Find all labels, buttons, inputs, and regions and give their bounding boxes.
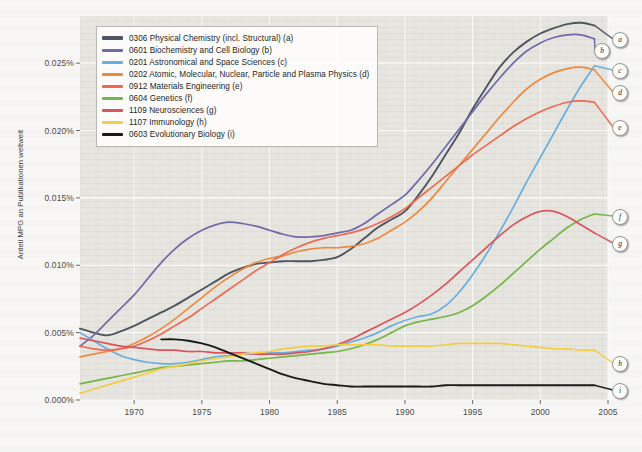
chart-legend: 0306 Physical Chemistry (incl. Structura… (96, 26, 378, 147)
legend-item[interactable]: 1109 Neurosciences (g) (102, 105, 369, 117)
legend-item-label: 0306 Physical Chemistry (incl. Structura… (129, 34, 293, 43)
legend-item[interactable]: 1107 Immunology (h) (102, 117, 369, 129)
legend-item[interactable]: 0202 Atomic, Molecular, Nuclear, Particl… (102, 68, 369, 80)
x-tick-label: 1995 (449, 407, 497, 417)
legend-color-swatch (102, 133, 123, 136)
series-end-badge-c: c (612, 63, 628, 79)
series-end-badge-g: g (612, 236, 628, 252)
y-tick-label: 0.010% (14, 260, 74, 270)
legend-item-label: 0202 Atomic, Molecular, Nuclear, Particl… (129, 70, 369, 79)
legend-item[interactable]: 0603 Evolutionary Biology (i) (102, 129, 369, 141)
series-end-badge-d: d (612, 85, 628, 101)
x-tick-label: 2000 (516, 407, 564, 417)
y-tick-label: 0.000% (14, 395, 74, 405)
series-end-badge-i: i (612, 383, 628, 399)
legend-item-label: 1107 Immunology (h) (129, 118, 207, 127)
series-end-badge-a: a (612, 32, 628, 48)
legend-item-label: 1109 Neurosciences (g) (129, 106, 216, 115)
legend-color-swatch (102, 97, 123, 100)
legend-color-swatch (102, 121, 123, 124)
chart-figure: Anteil MPG an Publikationen weltweit 0.0… (0, 0, 642, 452)
series-end-badge-h: h (612, 356, 628, 372)
y-tick-label: 0.020% (14, 126, 74, 136)
series-end-badge-f: f (612, 209, 628, 225)
legend-item-label: 0201 Astronomical and Space Sciences (c) (129, 58, 287, 67)
x-tick-label: 1975 (178, 407, 226, 417)
end-label-leaders (594, 25, 613, 390)
legend-item-label: 0604 Genetics (f) (129, 94, 193, 103)
y-tick-label: 0.025% (14, 58, 74, 68)
x-tick-label: 1980 (246, 407, 294, 417)
x-tick-label: 1985 (313, 407, 361, 417)
legend-item[interactable]: 0604 Genetics (f) (102, 92, 369, 104)
legend-item-label: 0912 Materials Engineering (e) (129, 82, 242, 91)
series-end-badge-e: e (612, 120, 628, 136)
x-tick-label: 2005 (584, 407, 632, 417)
legend-item[interactable]: 0201 Astronomical and Space Sciences (c) (102, 56, 369, 68)
legend-item[interactable]: 0912 Materials Engineering (e) (102, 80, 369, 92)
legend-item-label: 0603 Evolutionary Biology (i) (129, 130, 235, 139)
y-tick-label: 0.005% (14, 328, 74, 338)
legend-color-swatch (102, 36, 123, 39)
legend-color-swatch (102, 85, 123, 88)
x-tick-label: 1970 (110, 407, 158, 417)
y-tick-label: 0.015% (14, 193, 74, 203)
legend-item[interactable]: 0601 Biochemistry and Cell Biology (b) (102, 44, 369, 56)
legend-color-swatch (102, 49, 123, 52)
series-end-badge-b: b (594, 43, 610, 59)
legend-color-swatch (102, 73, 123, 76)
legend-item-label: 0601 Biochemistry and Cell Biology (b) (129, 46, 272, 55)
legend-color-swatch (102, 109, 123, 112)
x-tick-label: 1990 (381, 407, 429, 417)
legend-color-swatch (102, 61, 123, 64)
legend-item[interactable]: 0306 Physical Chemistry (incl. Structura… (102, 32, 369, 44)
